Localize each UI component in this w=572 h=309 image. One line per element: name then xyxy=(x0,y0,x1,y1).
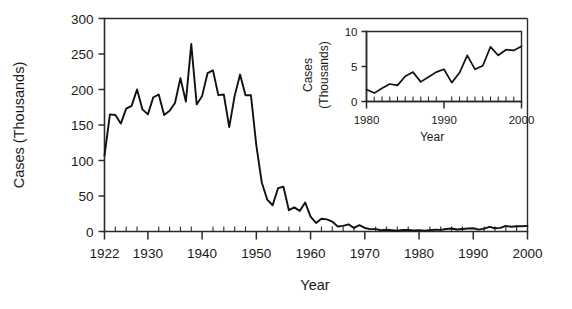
inset-y-axis-label-line1: Cases xyxy=(301,58,315,92)
y-tick-label: 100 xyxy=(71,154,94,169)
inset-y-tick-label: 0 xyxy=(351,96,357,108)
x-tick-label: 1970 xyxy=(350,246,380,261)
y-tick-label: 200 xyxy=(71,83,94,98)
main-y-axis-label: Cases (Thousands) xyxy=(11,62,27,189)
y-tick-label: 50 xyxy=(78,189,93,204)
pertussis-cases-line-chart: 050100150200250300 192219301940195019601… xyxy=(0,0,572,309)
x-tick-label: 1960 xyxy=(296,246,326,261)
x-tick-label: 1980 xyxy=(404,246,434,261)
y-tick-label: 150 xyxy=(71,118,94,133)
x-tick-label: 1922 xyxy=(89,246,119,261)
inset-x-tick-label: 1980 xyxy=(354,114,380,126)
x-tick-label: 1950 xyxy=(241,246,271,261)
x-tick-label: 1930 xyxy=(133,246,163,261)
x-tick-label: 2000 xyxy=(512,246,542,261)
inset-y-tick-label: 10 xyxy=(345,26,358,38)
main-x-tick-labels: 192219301940195019601970198019902000 xyxy=(89,246,542,261)
inset-x-axis-label: Year xyxy=(420,130,444,144)
x-tick-label: 1940 xyxy=(187,246,217,261)
inset-y-tick-label: 5 xyxy=(351,61,357,73)
main-x-axis-label: Year xyxy=(300,277,329,293)
y-tick-label: 250 xyxy=(71,47,94,62)
inset-x-tick-label: 1990 xyxy=(431,114,457,126)
y-tick-label: 300 xyxy=(71,12,94,27)
inset-y-axis-label-line2: (Thousands) xyxy=(317,41,331,108)
x-tick-label: 1990 xyxy=(458,246,488,261)
chart-figure: 050100150200250300 192219301940195019601… xyxy=(0,0,572,309)
y-tick-label: 0 xyxy=(86,225,94,240)
inset-x-tick-label: 2000 xyxy=(509,114,535,126)
